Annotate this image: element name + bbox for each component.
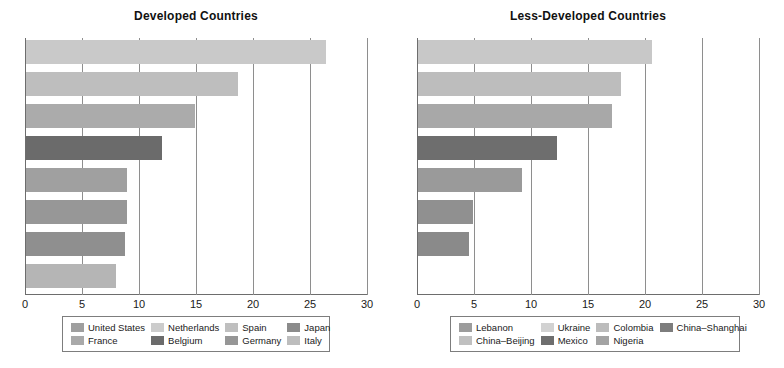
legend-label: Ukraine bbox=[558, 321, 591, 334]
x-tick-label: 30 bbox=[361, 298, 373, 310]
bar-row bbox=[26, 264, 367, 288]
legend-swatch-icon bbox=[541, 323, 554, 332]
legend-item: Mexico bbox=[541, 334, 591, 347]
bar-row bbox=[418, 232, 759, 256]
dual-bar-chart-figure: Developed Countries 051015202530 United … bbox=[0, 0, 784, 368]
legend-item: Spain bbox=[225, 321, 281, 334]
bar-ukraine bbox=[418, 104, 612, 128]
legend-swatch-icon bbox=[151, 323, 164, 332]
bar-netherlands bbox=[26, 104, 195, 128]
chart-panel-developed-countries: Developed Countries 051015202530 United … bbox=[0, 0, 392, 368]
legend-item: Germany bbox=[225, 334, 281, 347]
legend-item: China–Shanghai bbox=[660, 321, 747, 334]
legend-swatch-icon bbox=[71, 323, 84, 332]
legend-swatch-icon bbox=[151, 336, 164, 345]
legend-swatch-icon bbox=[596, 336, 609, 345]
bar-row bbox=[26, 136, 367, 160]
x-tick-label: 5 bbox=[471, 298, 477, 310]
bar-belgium bbox=[26, 136, 162, 160]
legend-swatch-icon bbox=[660, 323, 673, 332]
bar-row bbox=[418, 136, 759, 160]
legend-item: Japan bbox=[287, 321, 330, 334]
plot-area-less-developed bbox=[417, 38, 759, 295]
bar-germany bbox=[26, 200, 127, 224]
bar-china-shanghai bbox=[418, 232, 469, 256]
x-axis-tick-labels-left: 051015202530 bbox=[25, 298, 367, 314]
chart-title-less-developed: Less-Developed Countries bbox=[392, 9, 784, 23]
x-tick-label: 15 bbox=[582, 298, 594, 310]
bar-row bbox=[418, 72, 759, 96]
bar-row bbox=[26, 72, 367, 96]
legend-item: Netherlands bbox=[151, 321, 219, 334]
bar-spain bbox=[26, 168, 127, 192]
legend-swatch-icon bbox=[287, 323, 300, 332]
legend-label: Colombia bbox=[613, 321, 653, 334]
legend-item: Lebanon bbox=[459, 321, 535, 334]
legend-label: Spain bbox=[242, 321, 266, 334]
x-tick-label: 0 bbox=[22, 298, 28, 310]
bar-row bbox=[26, 232, 367, 256]
legend-item: Nigeria bbox=[596, 334, 653, 347]
legend-label: China–Beijing bbox=[476, 334, 535, 347]
x-tick-label: 10 bbox=[133, 298, 145, 310]
legend-item: Colombia bbox=[596, 321, 653, 334]
legend-item: Italy bbox=[287, 334, 330, 347]
bar-china-beijing bbox=[418, 72, 621, 96]
bar-row bbox=[418, 40, 759, 64]
legend-swatch-icon bbox=[287, 336, 300, 345]
legend-label: Netherlands bbox=[168, 321, 219, 334]
x-tick-label: 5 bbox=[79, 298, 85, 310]
bar-lebanon bbox=[418, 40, 652, 64]
legend-label: Japan bbox=[304, 321, 330, 334]
chart-panel-less-developed-countries: Less-Developed Countries 051015202530 Le… bbox=[392, 0, 784, 368]
legend-swatch-icon bbox=[225, 336, 238, 345]
legend-less-developed: LebanonChina–BeijingUkraineMexicoColombi… bbox=[450, 316, 740, 352]
x-axis-tick-labels-right: 051015202530 bbox=[417, 298, 759, 314]
legend-swatch-icon bbox=[71, 336, 84, 345]
legend-label: Nigeria bbox=[613, 334, 643, 347]
bar-row bbox=[26, 40, 367, 64]
legend-item: Belgium bbox=[151, 334, 219, 347]
bar-row bbox=[418, 168, 759, 192]
bar-row bbox=[26, 200, 367, 224]
x-tick-label: 20 bbox=[247, 298, 259, 310]
bar-italy bbox=[26, 264, 116, 288]
bar-nigeria bbox=[418, 200, 473, 224]
legend-label: France bbox=[88, 334, 118, 347]
x-tick-label: 0 bbox=[414, 298, 420, 310]
bar-row bbox=[26, 168, 367, 192]
gridline-30 bbox=[759, 38, 760, 295]
legend-swatch-icon bbox=[459, 336, 472, 345]
x-tick-label: 20 bbox=[639, 298, 651, 310]
chart-title-developed: Developed Countries bbox=[0, 9, 392, 23]
legend-swatch-icon bbox=[225, 323, 238, 332]
legend-label: Germany bbox=[242, 334, 281, 347]
legend-item: France bbox=[71, 334, 145, 347]
legend-label: United States bbox=[88, 321, 145, 334]
x-tick-label: 30 bbox=[753, 298, 765, 310]
bar-mexico bbox=[418, 136, 557, 160]
bar-united-states bbox=[26, 40, 326, 64]
bar-row bbox=[26, 104, 367, 128]
bar-japan bbox=[26, 232, 125, 256]
legend-label: China–Shanghai bbox=[677, 321, 747, 334]
bar-series-developed bbox=[26, 40, 367, 294]
legend-swatch-icon bbox=[459, 323, 472, 332]
legend-item: Ukraine bbox=[541, 321, 591, 334]
plot-area-developed bbox=[25, 38, 367, 295]
legend-item: United States bbox=[71, 321, 145, 334]
x-tick-label: 15 bbox=[190, 298, 202, 310]
legend-label: Lebanon bbox=[476, 321, 513, 334]
legend-label: Belgium bbox=[168, 334, 202, 347]
x-tick-label: 10 bbox=[525, 298, 537, 310]
bar-colombia bbox=[418, 168, 522, 192]
legend-label: Mexico bbox=[558, 334, 588, 347]
bar-france bbox=[26, 72, 238, 96]
legend-swatch-icon bbox=[596, 323, 609, 332]
x-tick-label: 25 bbox=[696, 298, 708, 310]
legend-label: Italy bbox=[304, 334, 321, 347]
legend-item: China–Beijing bbox=[459, 334, 535, 347]
legend-swatch-icon bbox=[541, 336, 554, 345]
gridline-30 bbox=[367, 38, 368, 295]
x-tick-label: 25 bbox=[304, 298, 316, 310]
